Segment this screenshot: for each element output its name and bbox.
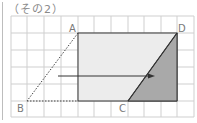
label-a: A	[69, 23, 76, 34]
geometry-diagram: A D B C	[0, 0, 197, 123]
label-d: D	[178, 23, 186, 34]
label-b: B	[17, 103, 24, 114]
label-c: C	[119, 103, 126, 114]
